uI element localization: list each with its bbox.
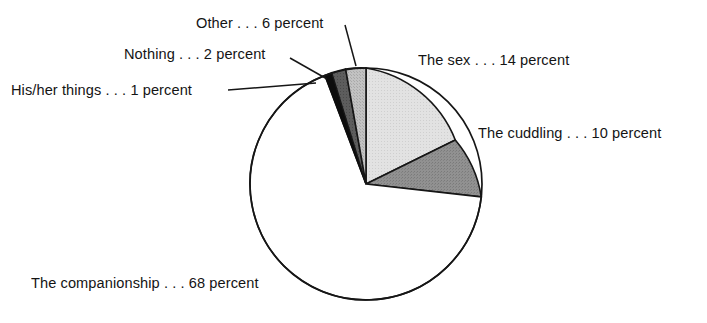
leader-line-other: [345, 25, 356, 66]
pie-label-his-her-things: His/her things . . . 1 percent: [11, 81, 192, 98]
leader-line-nothing: [290, 58, 327, 79]
pie-label-the-cuddling: The cuddling . . . 10 percent: [478, 124, 661, 141]
pie-label-the-companionship: The companionship . . . 68 percent: [31, 274, 259, 291]
pie-label-the-sex: The sex . . . 14 percent: [418, 51, 569, 68]
pie-label-other: Other . . . 6 percent: [196, 14, 324, 31]
pie-label-nothing: Nothing . . . 2 percent: [124, 45, 265, 62]
pie-chart-figure: Other . . . 6 percent Nothing . . . 2 pe…: [0, 0, 707, 323]
